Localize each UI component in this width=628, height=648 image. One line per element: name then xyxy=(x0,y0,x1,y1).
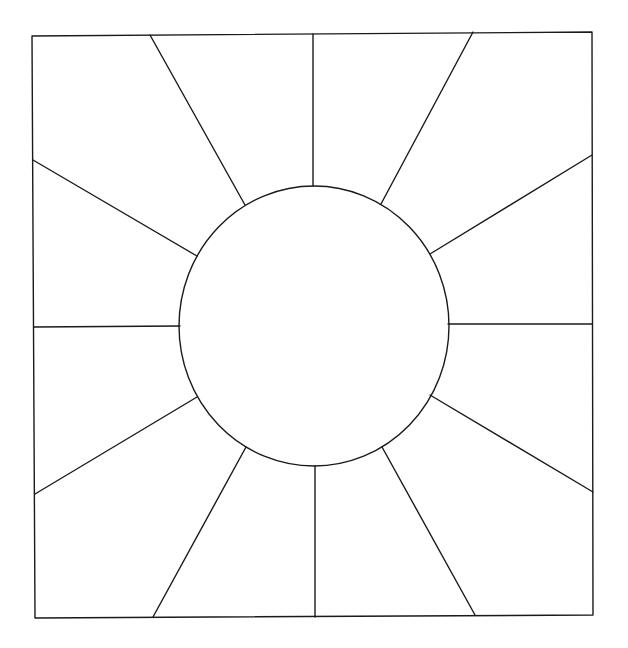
radial-rays xyxy=(33,32,593,617)
ray-line-10 xyxy=(153,447,246,617)
ray-line-6 xyxy=(34,326,180,327)
ray-line-5 xyxy=(430,155,592,254)
ray-line-2 xyxy=(150,35,245,205)
center-circle xyxy=(179,186,449,466)
ray-line-4 xyxy=(33,160,197,256)
sunburst-diagram xyxy=(0,0,628,648)
ray-line-8 xyxy=(35,397,197,494)
ray-line-3 xyxy=(381,32,473,204)
ray-line-11 xyxy=(382,447,475,615)
ray-line-9 xyxy=(430,395,593,492)
